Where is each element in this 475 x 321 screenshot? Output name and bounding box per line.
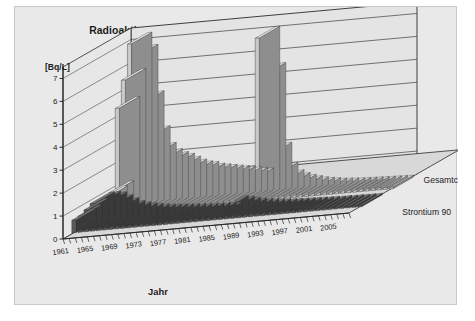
- x-axis-tick-label-1965: 1965: [76, 244, 94, 255]
- x-axis-tick-label-1981: 1981: [174, 235, 192, 246]
- x-axis-tick-2000: [300, 217, 302, 222]
- x-axis-tick-label-1961: 1961: [52, 246, 70, 257]
- x-axis-title: Jahr: [148, 286, 168, 297]
- x-axis-tick-1962: [69, 238, 71, 243]
- x-axis-tick-1983: [197, 227, 199, 232]
- y-axis-tick-label-2: 2: [53, 189, 58, 198]
- y-axis-tick-label-1: 1: [53, 212, 58, 221]
- x-axis-tick-1981: [185, 228, 187, 233]
- x-axis-tick-1961: [63, 239, 65, 244]
- y-axis-tick-label-7: 7: [53, 74, 58, 83]
- x-axis-tick-1966: [93, 236, 95, 241]
- x-axis-tick-1969: [112, 235, 114, 240]
- x-axis-tick-label-1997: 1997: [271, 226, 289, 237]
- x-axis-tick-1996: [276, 220, 278, 225]
- x-axis-tick-1967: [100, 236, 102, 241]
- x-axis-tick-label-1993: 1993: [247, 228, 265, 239]
- x-axis-tick-1975: [148, 231, 150, 236]
- x-axis-tick-1988: [227, 224, 229, 229]
- chart-figure-panel: Radioaktive Stoffe in Milch – Jahresmitt…: [14, 6, 457, 305]
- x-axis-tick-1995: [270, 220, 272, 225]
- x-axis-tick-label-1985: 1985: [198, 233, 216, 244]
- x-axis-tick-2003: [319, 216, 321, 221]
- x-axis-tick-1964: [81, 237, 83, 242]
- x-axis-tick-2006: [337, 214, 339, 219]
- x-axis-tick-2007: [343, 214, 345, 219]
- y-axis-tick-label-3: 3: [53, 166, 58, 175]
- x-axis-tick-1978: [166, 230, 168, 235]
- y-axis-tick-label-5: 5: [53, 120, 58, 129]
- x-axis-tick-1994: [264, 221, 266, 226]
- x-axis-tick-1972: [130, 233, 132, 238]
- x-axis-tick-1973: [136, 232, 138, 237]
- x-axis-tick-1987: [221, 225, 223, 230]
- x-axis-tick-1992: [252, 222, 254, 227]
- x-axis-tick-label-1973: 1973: [125, 239, 143, 250]
- series-label-gesamtcaesium: Gesamtcaesium: [424, 175, 458, 185]
- x-axis-tick-1980: [179, 228, 181, 233]
- x-axis-tick-1986: [215, 225, 217, 230]
- x-axis-tick-1985: [209, 226, 211, 231]
- x-axis-tick-1979: [173, 229, 175, 234]
- x-axis-tick-1998: [288, 219, 290, 224]
- y-axis-tick-label-0: 0: [53, 235, 58, 244]
- x-axis-tick-1963: [75, 238, 77, 243]
- x-axis-tick-2001: [306, 217, 308, 222]
- x-axis-tick-label-1977: 1977: [149, 237, 167, 248]
- x-axis-tick-1990: [239, 223, 241, 228]
- x-axis-tick-1997: [282, 219, 284, 224]
- x-axis-tick-2004: [325, 215, 327, 220]
- x-axis-tick-1993: [258, 221, 260, 226]
- chart-plot-area: 01234567[Bq/L]19611965196919731977198119…: [15, 7, 458, 306]
- series-label-strontium90: Strontium 90: [402, 207, 451, 217]
- x-axis-tick-label-2005: 2005: [320, 222, 338, 233]
- y-axis-tick-label-4: 4: [53, 143, 58, 152]
- x-axis-tick-1968: [106, 235, 108, 240]
- y-axis-tick-label-6: 6: [53, 97, 58, 106]
- x-axis-tick-2005: [331, 215, 333, 220]
- x-axis-tick-1989: [233, 224, 235, 229]
- x-axis-tick-1976: [154, 231, 156, 236]
- y-axis-unit-label: [Bq/L]: [45, 62, 70, 72]
- x-axis-tick-1982: [191, 227, 193, 232]
- x-axis-tick-1984: [203, 226, 205, 231]
- x-axis-tick-1974: [142, 232, 144, 237]
- x-axis-tick-1991: [246, 222, 248, 227]
- x-axis-tick-2008: [349, 213, 351, 218]
- x-axis-tick-2002: [312, 216, 314, 221]
- x-axis-tick-1965: [87, 237, 89, 242]
- x-axis-tick-label-1969: 1969: [101, 241, 119, 252]
- x-axis-tick-label-2001: 2001: [295, 224, 313, 235]
- x-axis-tick-1999: [294, 218, 296, 223]
- x-axis-tick-1971: [124, 233, 126, 238]
- x-axis-tick-label-1989: 1989: [222, 230, 240, 241]
- x-axis-tick-1977: [160, 230, 162, 235]
- x-axis-tick-1970: [118, 234, 120, 239]
